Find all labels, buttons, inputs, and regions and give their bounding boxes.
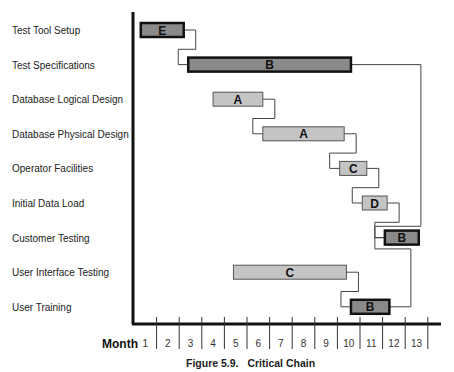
x-tick-label: 12 xyxy=(388,338,400,349)
x-tick-label: 3 xyxy=(188,338,194,349)
x-tick-label: 13 xyxy=(411,338,423,349)
resource-label: C xyxy=(349,162,358,176)
x-tick-label: 9 xyxy=(323,338,329,349)
task-label: User Training xyxy=(12,302,71,313)
resource-label: E xyxy=(158,24,166,38)
task-label: Test Tool Setup xyxy=(12,25,81,36)
resource-label: A xyxy=(299,127,308,141)
resource-label: D xyxy=(370,197,379,211)
task-label: User Interface Testing xyxy=(12,267,109,278)
task-labels: Test Tool SetupTest SpecificationsDataba… xyxy=(12,25,129,313)
critical-chain-chart: Task Test Tool SetupTest SpecificationsD… xyxy=(0,0,454,372)
resource-label: C xyxy=(286,266,295,280)
figure-title: Critical Chain xyxy=(247,357,315,369)
x-tick-label: 11 xyxy=(366,338,377,349)
figure-caption: Figure 5.9. Critical Chain xyxy=(186,357,315,369)
resource-label: B xyxy=(366,300,375,314)
x-tick-label: 6 xyxy=(256,338,262,349)
task-label: Initial Data Load xyxy=(12,198,84,209)
x-axis-title: Month xyxy=(102,337,138,351)
x-tick-label: 8 xyxy=(301,338,307,349)
dependency-connector xyxy=(375,238,411,307)
task-label: Customer Testing xyxy=(12,233,90,244)
x-tick-label: 10 xyxy=(343,338,355,349)
task-label: Operator Facilities xyxy=(12,163,93,174)
figure-label: Figure 5.9. xyxy=(186,357,239,369)
x-axis-ticks: 12345678910111213 xyxy=(143,317,428,349)
x-tick-label: 1 xyxy=(143,338,149,349)
resource-label: B xyxy=(397,231,406,245)
x-tick-label: 7 xyxy=(278,338,284,349)
x-tick-label: 4 xyxy=(210,338,216,349)
resource-label: A xyxy=(234,93,243,107)
x-tick-label: 2 xyxy=(165,338,171,349)
task-label: Test Specifications xyxy=(12,60,95,71)
resource-label: B xyxy=(265,58,274,72)
task-label: Database Logical Design xyxy=(12,94,123,105)
dependency-connector xyxy=(351,65,421,238)
x-tick-label: 5 xyxy=(233,338,239,349)
task-label: Database Physical Design xyxy=(12,129,129,140)
